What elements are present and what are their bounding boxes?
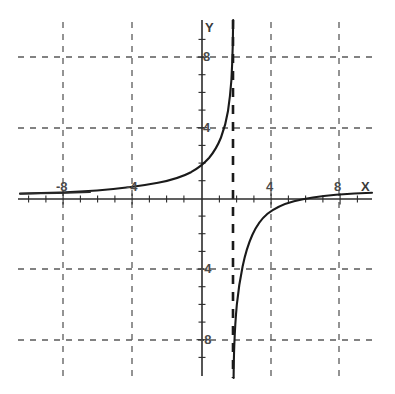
plot-canvas: [0, 0, 395, 394]
y-tick-label-pos4: 4: [203, 121, 210, 134]
x-tick-label-neg8: -8: [56, 180, 68, 193]
y-tick-label-pos8: 8: [203, 50, 210, 63]
x-tick-label-pos4: 4: [266, 180, 273, 193]
y-axis-label: Y: [205, 21, 214, 34]
rational-function-graph: X Y -8 -4 4 8 8 4 -4 -8: [0, 0, 395, 394]
y-tick-label-neg4: -4: [200, 262, 212, 275]
curve-left-branch: [20, 20, 233, 194]
curve-right-branch: [234, 193, 372, 378]
x-tick-label-neg4: -4: [126, 180, 138, 193]
x-tick-label-pos8: 8: [334, 180, 341, 193]
right-branch-path: [234, 193, 372, 378]
y-tick-label-neg8: -8: [200, 333, 212, 346]
left-branch-path: [20, 20, 233, 194]
axes: [18, 20, 372, 376]
x-axis-label: X: [361, 180, 370, 193]
